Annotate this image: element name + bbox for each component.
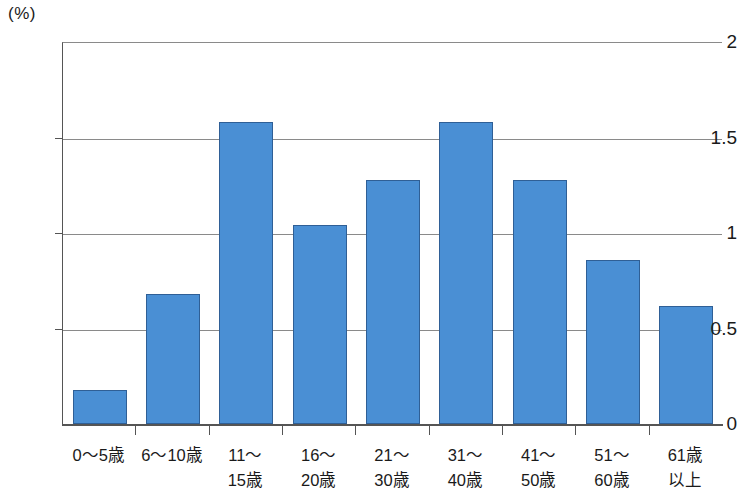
x-axis-tick-mark [575,424,576,435]
x-axis-category-label: 6〜10歳 [135,443,208,468]
x-axis-category-label-line1: 11〜 [228,446,262,464]
bar [586,260,640,424]
x-axis-category-label: 21〜30歳 [355,443,428,493]
x-axis-category-label-line2: 60歳 [575,468,648,493]
x-axis-category-label: 11〜15歳 [209,443,282,493]
x-axis-category-label-line1: 16〜 [301,446,336,464]
x-axis-category-label-line2: 20歳 [282,468,355,493]
y-axis-tick-mark [55,329,62,330]
bar [219,122,273,424]
x-axis-category-label-line1: 61歳 [668,446,703,464]
x-axis-category-label: 51〜60歳 [575,443,648,493]
x-axis-tick-mark [502,424,503,435]
x-axis-tick-mark [429,424,430,435]
y-axis-tick-label: 0 [685,413,737,435]
bar [146,294,200,424]
x-axis-category-label: 0〜5歳 [62,443,135,468]
x-axis-category-label-line1: 41〜 [521,446,556,464]
bar [293,225,347,424]
x-axis-category-label-line2: 以上 [649,468,722,493]
x-axis-category-label-line2: 15歳 [209,468,282,493]
y-axis-tick-label: 1 [685,222,737,244]
bar [439,122,493,424]
y-axis-unit-label: (%) [8,4,36,24]
x-axis-category-label: 16〜20歳 [282,443,355,493]
y-axis-tick-mark [55,233,62,234]
x-axis-tick-mark [135,424,136,435]
x-axis-tick-mark [649,424,650,435]
y-axis-tick-label: 1.5 [685,127,737,149]
y-axis-tick-label: 0.5 [685,318,737,340]
bar [73,390,127,424]
bar [366,180,420,424]
x-axis-tick-mark [355,424,356,435]
x-axis-category-label-line1: 31〜 [448,446,483,464]
x-axis-category-label-line2: 50歳 [502,468,575,493]
x-axis-line [62,424,723,426]
x-axis-category-label: 31〜40歳 [429,443,502,493]
x-axis-category-label-line2: 40歳 [429,468,502,493]
y-axis-tick-label: 2 [685,31,737,53]
x-axis-category-label-line1: 51〜 [594,446,629,464]
x-axis-tick-mark [282,424,283,435]
x-axis-tick-mark [209,424,210,435]
plot-area [62,42,722,424]
x-axis-category-label: 41〜50歳 [502,443,575,493]
x-axis-category-label-line1: 21〜 [374,446,409,464]
gridline-1.5 [63,139,722,140]
y-axis-tick-mark [55,138,62,139]
x-axis-category-label-line2: 30歳 [355,468,428,493]
x-axis-category-label-line1: 6〜10歳 [141,446,203,464]
bar-chart: (%) 00.511.52 0〜5歳6〜10歳11〜15歳16〜20歳21〜30… [0,0,737,502]
x-axis-category-label: 61歳以上 [649,443,722,493]
bar [513,180,567,424]
x-axis-category-label-line1: 0〜5歳 [72,446,124,464]
